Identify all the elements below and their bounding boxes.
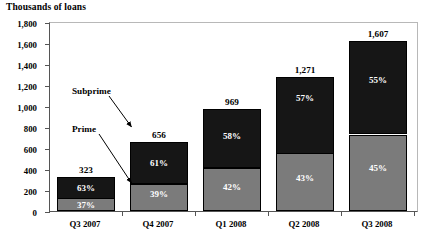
bar-segment-prime-q4-2007[interactable]: 39% — [130, 184, 188, 211]
y-axis-label-200: 200 — [24, 188, 37, 197]
y-tick-1000: 1,000 — [45, 107, 50, 108]
y-axis-label-600: 600 — [24, 146, 37, 155]
chart-title: Thousands of loans — [6, 2, 86, 12]
y-tick-1600: 1,600 — [45, 44, 50, 45]
bar-segment-subprime-q3-2008[interactable]: 55% — [349, 41, 407, 134]
bar-group-q4-2007[interactable]: 656 61% 39% — [130, 142, 188, 211]
bar-group-q2-2008[interactable]: 1,271 57% 43% — [276, 77, 334, 211]
y-tick-1400: 1,400 — [45, 65, 50, 66]
y-axis-label-400: 400 — [24, 167, 37, 176]
y-tick-600: 600 — [45, 149, 50, 150]
y-tick-1800: 1,800 — [45, 23, 50, 24]
y-axis-label-1000: 1,000 — [17, 104, 37, 113]
bar-group-q3-2007[interactable]: 323 63% 37% — [57, 177, 115, 211]
x-tick-1 — [122, 211, 123, 216]
bar-segment-subprime-q3-2007[interactable]: 63% — [57, 177, 115, 199]
bar-segment-prime-q3-2008[interactable]: 45% — [349, 135, 407, 211]
bar-total-label-q1-2008: 969 — [203, 97, 261, 107]
y-tick-400: 400 — [45, 170, 50, 171]
y-tick-1200: 1,200 — [45, 86, 50, 87]
bar-segment-subprime-q2-2008[interactable]: 57% — [276, 77, 334, 154]
x-tick-3 — [268, 211, 269, 216]
annotation-prime: Prime — [72, 124, 96, 134]
bar-segment-subprime-q1-2008[interactable]: 58% — [203, 109, 261, 168]
x-tick-4 — [341, 211, 342, 216]
plot-area: 0 200 400 600 800 1,000 1,200 1,400 1,60… — [49, 22, 418, 212]
x-axis-label-q2-2008: Q2 2008 — [288, 219, 319, 229]
bar-total-label-q2-2008: 1,271 — [276, 65, 334, 75]
bar-segment-label-prime-q1-2008: 42% — [204, 183, 260, 192]
bar-total-label-q3-2008: 1,607 — [349, 29, 407, 39]
y-axis-label-1600: 1,600 — [17, 41, 37, 50]
x-tick-2 — [195, 211, 196, 216]
bar-segment-label-prime-q2-2008: 43% — [277, 174, 333, 183]
annotation-subprime: Subprime — [72, 86, 111, 96]
bar-segment-prime-q1-2008[interactable]: 42% — [203, 168, 261, 211]
stacked-bar-chart: Thousands of loans 0 200 400 600 800 1,0… — [0, 0, 432, 242]
bar-segment-label-prime-q4-2007: 39% — [131, 190, 187, 199]
x-axis-label-q3-2008: Q3 2008 — [361, 219, 392, 229]
bar-total-label-q3-2007: 323 — [57, 165, 115, 175]
x-axis-label-q1-2008: Q1 2008 — [215, 219, 246, 229]
bar-segment-label-subprime-q3-2008: 55% — [350, 76, 406, 85]
bar-segment-prime-q2-2008[interactable]: 43% — [276, 153, 334, 211]
bar-total-label-q4-2007: 656 — [130, 130, 188, 140]
x-axis-label-q4-2007: Q4 2007 — [142, 219, 173, 229]
x-tick-5 — [414, 211, 415, 216]
y-axis-label-800: 800 — [24, 125, 37, 134]
y-tick-0: 0 — [45, 212, 50, 213]
bar-segment-label-subprime-q3-2007: 63% — [58, 184, 114, 193]
y-axis-label-1800: 1,800 — [17, 20, 37, 29]
y-tick-800: 800 — [45, 128, 50, 129]
bar-segment-label-prime-q3-2008: 45% — [350, 164, 406, 173]
bar-segment-label-subprime-q4-2007: 61% — [131, 159, 187, 168]
bar-group-q1-2008[interactable]: 969 58% 42% — [203, 109, 261, 211]
x-axis-label-q3-2007: Q3 2007 — [69, 219, 100, 229]
y-tick-200: 200 — [45, 191, 50, 192]
y-axis-label-0: 0 — [33, 209, 37, 218]
bar-group-q3-2008[interactable]: 1,607 55% 45% — [349, 41, 407, 211]
bar-segment-label-subprime-q2-2008: 57% — [277, 94, 333, 103]
y-axis-label-1400: 1,400 — [17, 62, 37, 71]
bar-segment-label-prime-q3-2007: 37% — [58, 201, 114, 210]
y-axis-label-1200: 1,200 — [17, 83, 37, 92]
bar-segment-subprime-q4-2007[interactable]: 61% — [130, 142, 188, 184]
bar-segment-label-subprime-q1-2008: 58% — [204, 132, 260, 141]
bar-segment-prime-q3-2007[interactable]: 37% — [57, 198, 115, 211]
